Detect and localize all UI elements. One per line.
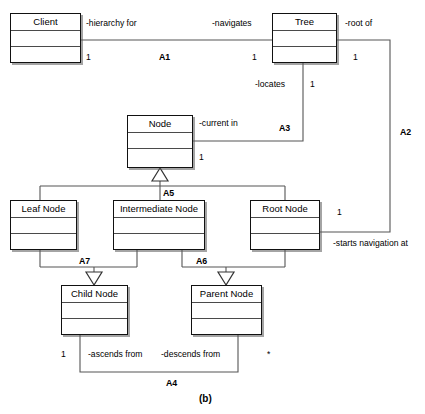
role-label-current-in: -current in [199,118,238,128]
multiplicity-root-node: 1 [337,207,342,217]
multiplicity-node: 1 [199,152,204,162]
class-box-client[interactable]: Client [10,13,81,63]
class-operations-child-node [62,319,127,334]
class-operations-client [11,47,80,62]
role-label-descends-from: -descends from [161,349,220,359]
class-operations-tree [273,47,336,62]
multiplicity-tree-bottom: 1 [310,79,315,89]
multiplicity-tree-left: 1 [252,52,257,62]
class-box-leaf-node[interactable]: Leaf Node [10,200,77,250]
role-label-ascends-from: -ascends from [88,349,142,359]
multiplicity-tree-right: 1 [353,52,358,62]
class-operations-node [128,149,192,167]
class-box-node[interactable]: Node [127,115,193,168]
multiplicity-child-node: 1 [61,349,66,359]
class-operations-root-node [251,234,319,249]
class-attributes-tree [273,31,336,47]
association-label-a7: A7 [79,256,90,266]
class-box-root-node[interactable]: Root Node [250,200,320,250]
association-label-a2: A2 [400,127,411,137]
multiplicity-client: 1 [86,52,91,62]
class-operations-parent-node [192,319,261,334]
role-label-root-of: -root of [345,18,372,28]
class-attributes-root-node [251,218,319,234]
role-label-starts-navigation-at: -starts navigation at [333,238,408,248]
class-name-child-node: Child Node [62,286,127,303]
class-attributes-child-node [62,303,127,319]
class-operations-leaf-node [11,234,76,249]
association-a2-line [320,40,390,232]
association-label-a1: A1 [159,52,170,62]
class-box-child-node[interactable]: Child Node [61,285,128,335]
role-label-navigates: -navigates [212,18,252,28]
association-label-a4: A4 [166,378,177,388]
association-label-a3: A3 [279,123,290,133]
generalization-arrow-a5 [152,168,168,181]
class-name-root-node: Root Node [251,201,319,218]
class-name-parent-node: Parent Node [192,286,261,303]
multiplicity-parent-node: * [267,349,270,359]
class-attributes-intermediate-node [114,218,204,234]
class-box-parent-node[interactable]: Parent Node [191,285,262,335]
figure-caption: (b) [199,393,212,404]
role-label-locates: -locates [255,79,285,89]
class-name-client: Client [11,14,80,31]
class-box-tree[interactable]: Tree [272,13,337,63]
class-name-tree: Tree [273,14,336,31]
generalization-arrow-a7 [86,272,102,285]
class-attributes-parent-node [192,303,261,319]
class-name-intermediate-node: Intermediate Node [114,201,204,218]
class-attributes-client [11,31,80,47]
class-attributes-node [128,133,192,149]
association-label-a6: A6 [196,256,207,266]
class-name-node: Node [128,116,192,133]
uml-class-diagram: Client Tree Node Leaf Node Intermediate … [0,0,425,414]
class-attributes-leaf-node [11,218,76,234]
role-label-hierarchy-for: -hierarchy for [86,18,137,28]
generalization-arrow-a6 [218,272,234,285]
class-name-leaf-node: Leaf Node [11,201,76,218]
class-box-intermediate-node[interactable]: Intermediate Node [113,200,205,250]
association-label-a5: A5 [163,188,174,198]
class-operations-intermediate-node [114,234,204,249]
